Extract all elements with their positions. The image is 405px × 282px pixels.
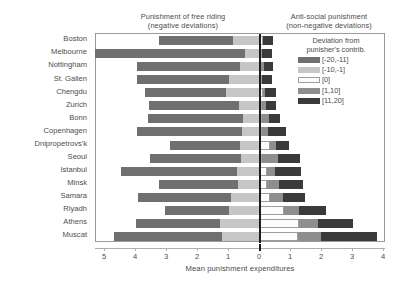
bar-segment	[260, 141, 270, 150]
y-axis-label-muscat: Muscat	[0, 231, 87, 239]
bar-segment	[267, 180, 279, 189]
left-panel-header-line1: Punishment of free riding	[108, 12, 258, 21]
y-axis-label-bonn: Bonn	[0, 114, 87, 122]
bar-segment	[262, 75, 272, 84]
y-axis-label-nottingham: Nottingham	[0, 61, 87, 69]
x-tick	[228, 248, 229, 251]
bar-row	[96, 193, 386, 202]
x-tick-label: 4	[125, 252, 145, 261]
x-tick-label: 5	[94, 252, 114, 261]
y-axis-label-seoul: Seoul	[0, 153, 87, 161]
x-tick-label: 2	[311, 252, 331, 261]
legend-item: [11,20]	[298, 97, 384, 106]
y-axis-category-labels: BostonMelbourneNottinghamSt. GallenCheng…	[0, 33, 92, 242]
bar-segment	[284, 206, 299, 215]
legend-swatch-icon	[298, 57, 320, 63]
legend-item: [-20,-11]	[298, 56, 384, 65]
bar-segment	[269, 114, 280, 123]
legend-title: Deviation from punisher's contrib.	[288, 36, 384, 54]
x-tick	[135, 248, 136, 251]
bar-segment	[240, 62, 260, 71]
y-axis-label-st-gallen: St. Gallen	[0, 75, 87, 83]
chart-figure: Punishment of free riding (negative devi…	[0, 0, 405, 282]
bar-segment	[239, 101, 260, 110]
bar-segment	[260, 180, 267, 189]
x-axis-line	[95, 248, 385, 249]
bar-segment	[229, 206, 260, 215]
y-axis-label-riyadh: Riyadh	[0, 205, 87, 213]
legend: Deviation from punisher's contrib. [-20,…	[288, 36, 384, 102]
bar-segment	[260, 167, 267, 176]
left-panel-header: Punishment of free riding (negative devi…	[108, 12, 258, 31]
right-panel-header-line1: Anti-social punishment	[258, 12, 400, 21]
y-axis-label-boston: Boston	[0, 35, 87, 43]
bar-segment	[242, 127, 260, 136]
bar-row	[96, 219, 386, 228]
bar-segment	[145, 88, 226, 97]
bar-segment	[170, 141, 240, 150]
bar-segment	[267, 167, 275, 176]
bar-segment	[229, 75, 260, 84]
y-axis-label-athens: Athens	[0, 218, 87, 226]
bar-row	[96, 154, 386, 163]
legend-title-line1: Deviation from	[288, 36, 384, 45]
x-tick	[104, 248, 105, 251]
bar-segment	[159, 180, 238, 189]
bar-segment	[231, 193, 260, 202]
bar-segment	[321, 232, 377, 241]
bar-segment	[149, 101, 239, 110]
y-axis-label-istanbul: Istanbul	[0, 166, 87, 174]
bar-segment	[279, 180, 303, 189]
bar-segment	[260, 219, 299, 228]
right-panel-header: Anti-social punishment (non-negative dev…	[258, 12, 400, 31]
bar-segment	[121, 167, 237, 176]
bar-segment	[245, 49, 260, 58]
legend-swatch-icon	[298, 98, 320, 104]
bar-segment	[136, 219, 220, 228]
x-tick-label: 1	[280, 252, 300, 261]
x-tick	[197, 248, 198, 251]
bar-segment	[264, 62, 273, 71]
legend-swatch-icon	[298, 88, 320, 94]
bar-segment	[237, 167, 260, 176]
bar-segment	[222, 232, 260, 241]
legend-item-label: [-10,-1]	[322, 66, 345, 74]
bar-segment	[243, 114, 260, 123]
bar-row	[96, 167, 386, 176]
x-tick	[166, 248, 167, 251]
bar-segment	[278, 154, 300, 163]
bar-segment	[233, 36, 260, 45]
bar-segment	[241, 154, 260, 163]
bar-segment	[148, 114, 243, 123]
bar-row	[96, 114, 386, 123]
legend-item: [1,10]	[298, 87, 384, 96]
left-panel-header-line2: (negative deviations)	[108, 21, 258, 30]
bar-segment	[240, 141, 260, 150]
bar-row	[96, 206, 386, 215]
bar-segment	[114, 232, 222, 241]
bar-segment	[238, 180, 260, 189]
legend-title-line2: punisher's contrib.	[288, 45, 384, 54]
y-axis-label-zurich: Zurich	[0, 101, 87, 109]
y-axis-label-copenhagen: Copenhagen	[0, 127, 87, 135]
bar-row	[96, 232, 386, 241]
bar-segment	[266, 101, 276, 110]
bar-segment	[275, 167, 301, 176]
x-tick	[352, 248, 353, 251]
bar-segment	[137, 75, 229, 84]
legend-item: [-10,-1]	[298, 66, 384, 75]
legend-item-label: [11,20]	[322, 97, 344, 105]
x-tick	[259, 244, 261, 251]
bar-segment	[262, 49, 272, 58]
x-tick-label: 4	[373, 252, 393, 261]
bar-segment	[138, 193, 231, 202]
y-axis-label-dnipropetrovs-k: Dnipropetrovs'k	[0, 140, 87, 148]
bar-segment	[137, 127, 242, 136]
bar-segment	[283, 193, 305, 202]
bar-segment	[318, 219, 353, 228]
bar-segment	[150, 154, 241, 163]
bar-segment	[262, 154, 278, 163]
bar-segment	[276, 141, 289, 150]
bar-segment	[260, 206, 284, 215]
y-axis-label-minsk: Minsk	[0, 179, 87, 187]
